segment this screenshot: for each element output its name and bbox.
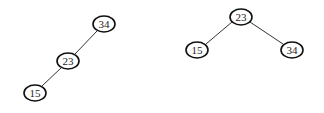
left-tree: 34 23 15	[24, 16, 115, 101]
node-23: 23	[230, 9, 252, 25]
node-label: 34	[287, 44, 299, 56]
tree-diagram: 34 23 15 23 15	[0, 0, 324, 113]
node-label: 23	[236, 11, 248, 23]
node-label: 34	[99, 18, 111, 30]
node-label: 15	[30, 87, 42, 99]
node-23: 23	[57, 53, 79, 69]
node-34: 34	[281, 42, 303, 58]
node-15: 15	[186, 42, 208, 58]
edge-23-to-34	[250, 22, 283, 44]
node-label: 23	[63, 55, 75, 67]
edge-23-to-15	[42, 68, 61, 86]
right-tree: 23 15 34	[186, 9, 303, 58]
diagram-canvas: 34 23 15 23 15	[0, 0, 324, 113]
node-label: 15	[192, 44, 204, 56]
edge-34-to-23	[75, 31, 97, 54]
node-34: 34	[93, 16, 115, 32]
node-15: 15	[24, 85, 46, 101]
edge-23-to-15	[206, 22, 232, 44]
